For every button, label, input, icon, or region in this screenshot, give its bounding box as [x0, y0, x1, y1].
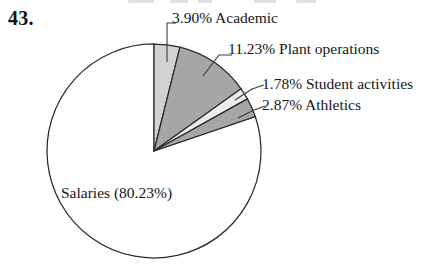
- pie-label-athletics: 2.87% Athletics: [262, 97, 361, 113]
- pie-label-student-activities: 1.78% Student activities: [262, 76, 413, 92]
- pie-chart-figure: 43. 3.90% Academic 11.23% Plant operatio…: [0, 0, 442, 279]
- pie-label-academic: 3.90% Academic: [172, 10, 278, 26]
- pie-label-salaries: Salaries (80.23%): [61, 185, 172, 201]
- pie-label-plant-operations: 11.23% Plant operations: [228, 41, 379, 57]
